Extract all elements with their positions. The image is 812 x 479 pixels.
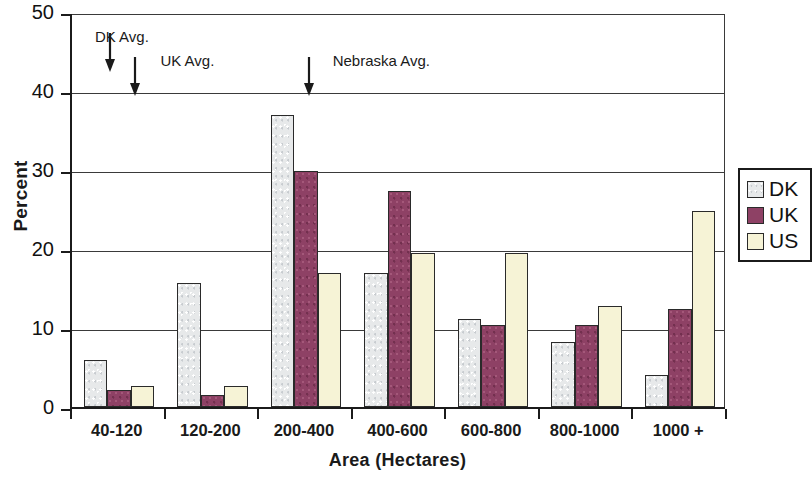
bar-group [540, 14, 634, 407]
legend-swatch-icon [747, 233, 764, 250]
legend-item-label: UK [769, 203, 798, 227]
y-tick-mark [61, 93, 70, 95]
bar-us-1000 [692, 211, 716, 407]
y-tick-label: 20 [10, 238, 54, 261]
bar-dk-120200 [177, 283, 201, 407]
x-tick-mark [538, 409, 540, 419]
x-tick-mark [351, 409, 353, 419]
y-tick-label: 10 [10, 317, 54, 340]
bar-uk-40120 [107, 390, 131, 407]
plot-area: DK Avg.UK Avg.Nebraska Avg. [70, 14, 725, 409]
annotation-arrow-icon [128, 56, 142, 96]
bar-us-8001000 [598, 306, 622, 407]
x-tick-mark [257, 409, 259, 419]
x-tick-mark [70, 409, 72, 419]
bar-group [72, 14, 166, 407]
x-tick-mark [444, 409, 446, 419]
y-tick-label: 30 [10, 159, 54, 182]
bar-uk-200400 [294, 171, 318, 407]
bar-dk-600800 [458, 319, 482, 407]
x-axis-title: Area (Hectares) [70, 450, 725, 471]
bar-uk-8001000 [575, 325, 599, 407]
bar-dk-1000 [645, 375, 669, 407]
legend-swatch-icon [747, 207, 764, 224]
bar-us-40120 [131, 386, 155, 407]
y-axis-title: Percent [10, 141, 32, 251]
bar-dk-8001000 [551, 342, 575, 407]
bar-uk-1000 [668, 309, 692, 407]
bar-dk-200400 [271, 115, 295, 407]
bar-group [353, 14, 447, 407]
bar-uk-400600 [388, 191, 412, 407]
legend-item-us[interactable]: US [747, 228, 810, 254]
y-tick-mark [61, 14, 70, 16]
x-tick-mark [725, 409, 727, 419]
annotation-label: DK Avg. [95, 28, 149, 45]
x-tick-mark [164, 409, 166, 419]
annotation-label: Nebraska Avg. [333, 52, 430, 69]
bar-dk-40120 [84, 360, 108, 407]
x-tick-mark [631, 409, 633, 419]
y-tick-mark [61, 251, 70, 253]
bar-group [633, 14, 727, 407]
bar-us-400600 [411, 253, 435, 407]
annotation-label: UK Avg. [160, 52, 214, 69]
legend-item-label: DK [769, 177, 798, 201]
bar-us-200400 [318, 273, 342, 407]
legend-swatch-icon [747, 181, 764, 198]
bar-uk-120200 [201, 395, 225, 407]
y-tick-label: 50 [10, 1, 54, 24]
legend: DKUKUS [738, 168, 812, 262]
x-tick-label: 1000 + [618, 421, 738, 440]
y-tick-mark [61, 172, 70, 174]
y-tick-label: 0 [10, 396, 54, 419]
bar-uk-600800 [481, 325, 505, 407]
y-tick-label: 40 [10, 80, 54, 103]
y-tick-mark [61, 330, 70, 332]
bar-us-120200 [224, 386, 248, 407]
y-tick-mark [61, 409, 70, 411]
legend-item-label: US [769, 229, 798, 253]
legend-item-dk[interactable]: DK [747, 176, 810, 202]
legend-item-uk[interactable]: UK [747, 202, 810, 228]
bar-dk-400600 [364, 273, 388, 407]
annotation-arrow-icon [302, 56, 316, 96]
bar-group [446, 14, 540, 407]
bar-us-600800 [505, 253, 529, 407]
bar-group [166, 14, 260, 407]
